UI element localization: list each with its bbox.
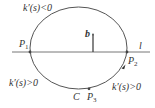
- annotation-top: k′(s)<0: [23, 3, 52, 13]
- label-curve-c: C: [73, 92, 80, 102]
- label-vector-b: b: [85, 29, 90, 39]
- label-p1: P1: [19, 39, 29, 52]
- annotation-bottom-left: k′(s)>0: [9, 78, 38, 88]
- label-p2: P2: [128, 56, 138, 69]
- point-p3: [88, 87, 91, 90]
- vector-b-tip: [92, 34, 94, 36]
- point-p1: [29, 51, 32, 54]
- label-p2-sub: 2: [134, 60, 138, 68]
- annotation-bottom-right: k′(s)>0: [112, 82, 141, 92]
- label-line-l: l: [139, 41, 142, 51]
- label-p3-sub: 3: [93, 96, 97, 104]
- label-p3: P3: [87, 92, 97, 105]
- point-p2: [126, 51, 129, 54]
- curve-c: [30, 7, 127, 89]
- label-p1-sub: 1: [25, 43, 29, 51]
